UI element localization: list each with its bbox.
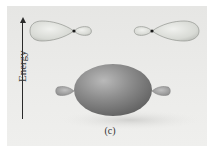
nucleus-icon: [150, 29, 153, 32]
upper-right-orbital: [134, 21, 199, 41]
nucleus-icon: [72, 29, 75, 32]
energy-axis-arrow-icon: [20, 17, 26, 23]
figure-caption: (c): [95, 125, 125, 136]
energy-axis-label: Energy: [15, 52, 29, 82]
lower-bonding-orbital: [56, 64, 171, 116]
upper-left-orbital: [30, 21, 91, 41]
